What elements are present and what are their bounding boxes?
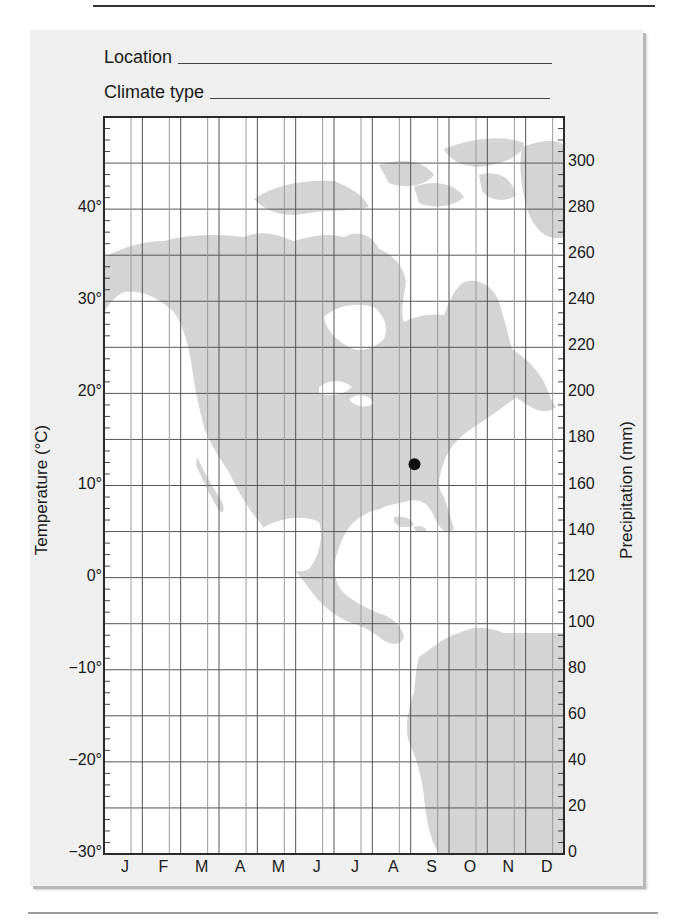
y-right-tick-label: 300 bbox=[568, 152, 595, 170]
month-label: O bbox=[460, 858, 480, 876]
month-label: A bbox=[230, 858, 250, 876]
y-right-tick-label: 40 bbox=[568, 751, 586, 769]
location-field[interactable]: Location bbox=[104, 47, 552, 68]
location-label: Location bbox=[104, 47, 172, 68]
month-label: S bbox=[422, 858, 442, 876]
month-label: J bbox=[307, 858, 327, 876]
y-right-tick-label: 80 bbox=[568, 659, 586, 677]
y-right-tick-label: 100 bbox=[568, 613, 595, 631]
y-right-tick-label: 160 bbox=[568, 475, 595, 493]
bottom-rule bbox=[28, 912, 658, 914]
y-tick-label: 10° bbox=[42, 475, 102, 493]
month-label: A bbox=[383, 858, 403, 876]
y-right-tick-label: 180 bbox=[568, 428, 595, 446]
y-tick-label: 30° bbox=[42, 290, 102, 308]
climate-type-field[interactable]: Climate type bbox=[104, 82, 550, 103]
y-right-tick-label: 200 bbox=[568, 382, 595, 400]
y-right-tick-label: 120 bbox=[568, 567, 595, 585]
location-blank-line[interactable] bbox=[178, 62, 552, 64]
top-rule bbox=[93, 5, 655, 7]
month-label: F bbox=[153, 858, 173, 876]
y-tick-label: −10° bbox=[42, 659, 102, 677]
y-right-tick-label: 260 bbox=[568, 244, 595, 262]
y-tick-label: −30° bbox=[42, 843, 102, 861]
month-label: M bbox=[192, 858, 212, 876]
climograph-chart bbox=[104, 117, 564, 854]
y-tick-label: 20° bbox=[42, 382, 102, 400]
location-marker-dot bbox=[409, 458, 421, 470]
y-tick-label: 40° bbox=[42, 198, 102, 216]
y-axis-label-precipitation: Precipitation (mm) bbox=[617, 421, 637, 559]
y-right-tick-label: 280 bbox=[568, 198, 595, 216]
month-label: D bbox=[537, 858, 557, 876]
y-right-tick-label: 220 bbox=[568, 336, 595, 354]
chart-plot-area bbox=[104, 117, 564, 854]
y-tick-label: −20° bbox=[42, 751, 102, 769]
y-right-tick-label: 140 bbox=[568, 521, 595, 539]
month-label: J bbox=[115, 858, 135, 876]
month-label: M bbox=[268, 858, 288, 876]
y-right-tick-label: 240 bbox=[568, 290, 595, 308]
y-tick-label: 0° bbox=[42, 567, 102, 585]
month-label: N bbox=[498, 858, 518, 876]
month-label: J bbox=[345, 858, 365, 876]
y-right-tick-label: 0 bbox=[568, 843, 577, 861]
y-right-tick-label: 60 bbox=[568, 705, 586, 723]
climate-type-label: Climate type bbox=[104, 82, 204, 103]
climate-type-blank-line[interactable] bbox=[210, 97, 550, 99]
y-right-tick-label: 20 bbox=[568, 797, 586, 815]
